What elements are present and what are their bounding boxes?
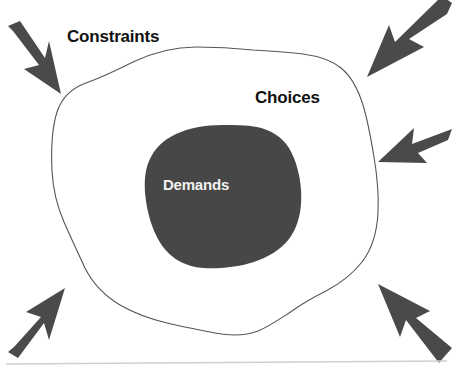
label-demands: Demands (163, 176, 229, 193)
diagram-canvas: Constraints Choices Demands (0, 0, 453, 372)
label-constraints: Constraints (67, 27, 159, 47)
arrow-bottom-right-icon (378, 284, 452, 363)
baseline-rule (6, 361, 447, 364)
arrow-right-icon (378, 128, 452, 163)
arrow-bottom-left-icon (8, 288, 65, 358)
arrow-top-right-icon (367, 0, 452, 77)
label-choices: Choices (255, 88, 320, 108)
inner-blob-shape (145, 125, 301, 268)
arrow-top-left-icon (8, 21, 61, 94)
